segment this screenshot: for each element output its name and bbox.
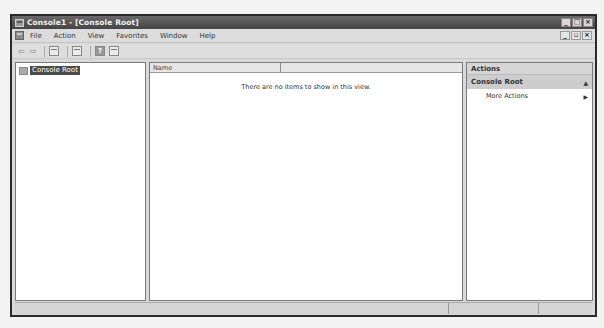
status-segment-2: [449, 303, 539, 314]
menu-window[interactable]: Window: [160, 32, 188, 40]
mmc-window: Console1 - [Console Root] _ □ × File Act…: [10, 14, 597, 317]
menu-action[interactable]: Action: [54, 32, 76, 40]
actions-pane: Actions Console Root ▲ More Actions ▶: [466, 62, 593, 301]
list-header: Name: [150, 63, 462, 73]
collapse-up-icon[interactable]: ▲: [583, 79, 588, 86]
console-menu-icon[interactable]: [15, 31, 24, 40]
export-list-icon[interactable]: [72, 46, 82, 56]
tree-item-label: Console Root: [30, 66, 80, 75]
forward-arrow-icon[interactable]: ⇨: [28, 46, 38, 56]
menu-view[interactable]: View: [88, 32, 105, 40]
actions-group-console-root[interactable]: Console Root ▲: [467, 75, 592, 89]
child-minimize-button[interactable]: _: [560, 31, 570, 40]
menu-bar: File Action View Favorites Window Help _…: [12, 29, 595, 43]
help-icon[interactable]: ?: [95, 46, 105, 56]
minimize-button[interactable]: _: [561, 18, 571, 27]
column-header-name[interactable]: Name: [150, 63, 281, 72]
submenu-arrow-icon: ▶: [583, 93, 588, 100]
menu-help[interactable]: Help: [200, 32, 216, 40]
tree-item-console-root[interactable]: Console Root: [19, 66, 80, 75]
action-more-actions[interactable]: More Actions ▶: [467, 89, 592, 103]
actions-pane-header: Actions: [467, 63, 592, 75]
folder-icon: [19, 67, 28, 75]
status-segment-main: [15, 303, 449, 314]
toolbar-separator: [44, 46, 45, 57]
child-window-controls: _ ▫ ×: [560, 31, 592, 40]
back-arrow-icon[interactable]: ⇦: [16, 46, 26, 56]
status-bar: [15, 302, 592, 314]
results-list-pane: Name There are no items to show in this …: [149, 62, 463, 301]
child-close-button[interactable]: ×: [582, 31, 592, 40]
action-label: More Actions: [486, 92, 528, 100]
maximize-button[interactable]: □: [572, 18, 582, 27]
window-controls: _ □ ×: [561, 18, 593, 27]
console-app-icon: [15, 19, 24, 27]
column-header-blank[interactable]: [281, 63, 462, 72]
actions-group-title: Console Root: [471, 78, 523, 86]
title-bar[interactable]: Console1 - [Console Root] _ □ ×: [12, 16, 595, 29]
show-hide-action-pane-icon[interactable]: [109, 46, 119, 56]
child-restore-button[interactable]: ▫: [571, 31, 581, 40]
empty-list-message: There are no items to show in this view.: [150, 83, 462, 91]
toolbar: ⇦ ⇨ ?: [12, 44, 595, 59]
toolbar-separator: [67, 46, 68, 57]
show-hide-console-tree-icon[interactable]: [49, 46, 59, 56]
close-button[interactable]: ×: [583, 18, 593, 27]
console-tree-pane: Console Root: [15, 62, 146, 301]
status-segment-3: [539, 303, 592, 314]
menu-favorites[interactable]: Favorites: [116, 32, 148, 40]
menu-file[interactable]: File: [30, 32, 42, 40]
window-title: Console1 - [Console Root]: [27, 18, 139, 27]
toolbar-separator: [90, 46, 91, 57]
main-content: Console Root Name There are no items to …: [15, 62, 592, 301]
